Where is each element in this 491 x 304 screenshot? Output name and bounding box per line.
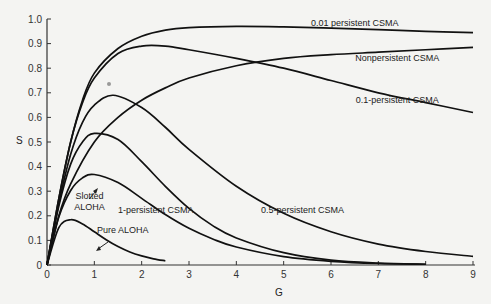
y-tick-label: 0.1	[28, 235, 42, 246]
1-persistent-csma-label: 1-persistent CSMA	[118, 205, 194, 215]
pure-aloha-label: Pure ALOHA	[97, 225, 149, 235]
0-1-persistent-csma-label: 0.1-persistent CSMA	[356, 95, 439, 105]
x-tick-label: 8	[423, 269, 429, 280]
y-tick-label: 0.2	[28, 210, 42, 221]
slotted-aloha-label: SlottedALOHA	[74, 191, 105, 212]
pure-aloha-arrowhead	[96, 246, 101, 251]
0-01-persistent-csma-label: 0.01 persistent CSMA	[311, 18, 399, 28]
y-tick-label: 0.6	[28, 112, 42, 123]
x-tick-label: 5	[281, 269, 287, 280]
nonpersistent-csma-label: Nonpersistent CSMA	[355, 53, 439, 63]
x-tick-label: 6	[328, 269, 334, 280]
slotted-aloha-curve	[47, 174, 426, 265]
x-tick-label: 7	[376, 269, 382, 280]
x-tick-label: 4	[234, 269, 240, 280]
y-tick-label: 1.0	[28, 14, 42, 25]
curve-labels: 0.01 persistent CSMANonpersistent CSMA0.…	[74, 18, 439, 235]
x-tick-label: 9	[470, 269, 476, 280]
x-tick-label: 1	[92, 269, 98, 280]
y-tick-label: 0	[36, 260, 42, 271]
x-tick-label: 0	[44, 269, 50, 280]
x-axis-title: G	[275, 287, 283, 298]
x-tick-label: 2	[139, 269, 145, 280]
y-tick-label: 0.5	[28, 137, 42, 148]
dot-mark	[107, 82, 111, 86]
y-axis-title: S	[16, 135, 23, 146]
y-tick-label: 0.3	[28, 186, 42, 197]
throughput-chart: 012345678900.10.20.30.40.50.60.70.80.91.…	[0, 0, 491, 304]
y-tick-label: 0.8	[28, 63, 42, 74]
0-5-persistent-csma-label: 0.5-persistent CSMA	[261, 205, 344, 215]
y-tick-label: 0.4	[28, 161, 42, 172]
y-tick-label: 0.9	[28, 38, 42, 49]
x-tick-label: 3	[186, 269, 192, 280]
y-tick-label: 0.7	[28, 87, 42, 98]
